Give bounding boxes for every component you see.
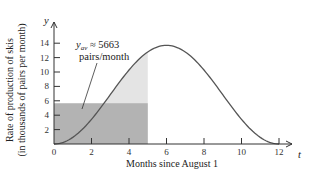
x-tick-label: 12	[275, 147, 284, 157]
annotation-unit: pairs/month	[79, 51, 130, 62]
y-axis-variable: y	[43, 15, 49, 26]
y-tick-label: 12	[40, 53, 49, 63]
x-tick-label: 4	[127, 147, 132, 157]
y-axis-title-line2: (in thousands of pairs per month)	[16, 23, 28, 156]
y-tick-label: 10	[40, 67, 50, 77]
average-value-rectangle	[54, 103, 148, 144]
x-tick-label: 0	[52, 147, 57, 157]
x-axis-variable: t	[298, 149, 302, 160]
y-tick-label: 2	[45, 125, 50, 135]
y-tick-label: 8	[45, 81, 50, 91]
y-tick-label: 6	[45, 96, 50, 106]
x-tick-label: 2	[89, 147, 94, 157]
y-tick-label: 4	[45, 110, 50, 120]
annotation-pointer	[82, 63, 97, 109]
x-tick-label: 8	[202, 147, 207, 157]
chart: 024681012 2468101214 t y Months since Au…	[0, 0, 317, 182]
y-tick-label: 14	[40, 38, 50, 48]
x-tick-label: 6	[164, 147, 169, 157]
y-axis-title-line1: Rate of production of skis	[4, 38, 15, 142]
x-tick-label: 10	[237, 147, 247, 157]
x-axis-title: Months since August 1	[126, 158, 218, 169]
